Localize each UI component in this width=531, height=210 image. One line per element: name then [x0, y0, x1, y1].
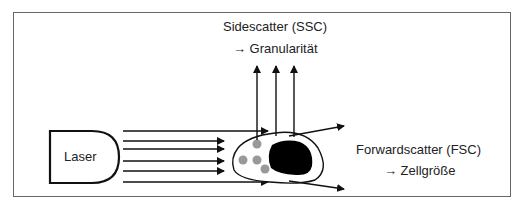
side-scatter-arrows — [257, 66, 294, 140]
laser-label: Laser — [64, 149, 97, 164]
ssc-title: Sidescatter (SSC) — [223, 19, 327, 34]
fsc-meaning: → Zellgröße — [384, 163, 456, 178]
cell-nucleus — [269, 141, 313, 176]
ssc-meaning: → Granularität — [233, 41, 318, 56]
fsc-title: Forwardscatter (FSC) — [356, 142, 481, 157]
